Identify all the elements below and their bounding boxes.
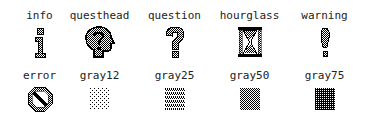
gray25-icon (165, 88, 185, 110)
warning-icon (320, 27, 330, 57)
bitmap-label: gray50 (212, 69, 287, 82)
bitmap-cell-questhead: questhead (62, 9, 137, 58)
bitmap-cell-gray25: gray25 (137, 69, 212, 110)
info-icon (34, 28, 46, 58)
questhead-icon (84, 26, 116, 58)
bitmap-cell-gray50: gray50 (212, 69, 287, 110)
bitmap-cell-gray75: gray75 (287, 69, 362, 110)
bitmap-cell-hourglass: hourglass (212, 9, 287, 57)
bitmap-label: questhead (62, 9, 137, 22)
error-icon (27, 86, 53, 112)
bitmap-label: question (137, 9, 212, 22)
gray12-icon (90, 88, 110, 110)
bitmap-label: warning (287, 9, 362, 22)
gray75-icon (315, 88, 335, 110)
bitmap-label: gray75 (287, 69, 362, 82)
bitmap-cell-warning: warning (287, 9, 362, 57)
gray50-icon (240, 88, 260, 110)
hourglass-icon (238, 27, 262, 57)
bitmap-label: gray25 (137, 69, 212, 82)
bitmap-cell-question: question (137, 9, 212, 58)
question-icon (164, 26, 186, 58)
bitmap-cell-gray12: gray12 (62, 69, 137, 110)
bitmap-label: hourglass (212, 9, 287, 22)
bitmap-label: gray12 (62, 69, 137, 82)
